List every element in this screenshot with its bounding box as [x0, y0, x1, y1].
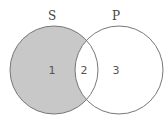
- set-label-p: P: [112, 9, 120, 23]
- region-2-label: 2: [81, 64, 88, 77]
- venn-diagram: S P 1 2 3: [0, 0, 168, 122]
- set-label-s: S: [48, 9, 56, 23]
- region-3-label: 3: [113, 64, 120, 77]
- region-1-label: 1: [49, 64, 56, 77]
